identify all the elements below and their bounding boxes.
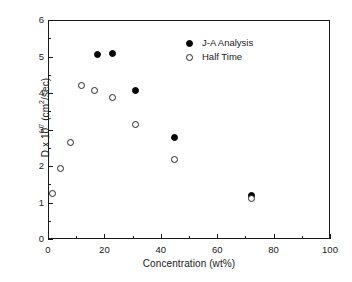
x-axis-tick-label: 100 — [315, 245, 345, 255]
x-axis-tick — [161, 234, 162, 239]
x-axis-tick — [104, 234, 105, 239]
x-axis-tick — [48, 234, 49, 239]
y-axis-title-post-2: /sec) — [40, 78, 51, 100]
x-axis-tick-label: 80 — [259, 245, 289, 255]
y-axis-title: D x 107 (cm2/sec) — [40, 33, 51, 203]
y-axis-tick — [48, 239, 53, 240]
x-axis-minor-tick — [189, 236, 190, 239]
x-axis-minor-tick — [76, 236, 77, 239]
data-point-open — [67, 139, 74, 146]
x-axis-title: Concentration (wt%) — [48, 258, 330, 269]
x-axis-minor-tick — [245, 236, 246, 239]
y-axis-tick-label: 6 — [26, 15, 44, 25]
legend-label: Half Time — [202, 52, 242, 62]
data-point-filled — [171, 134, 178, 141]
open-circle-icon — [186, 54, 193, 61]
x-axis-tick-labels: 020406080100 — [48, 245, 330, 259]
data-point-filled — [109, 50, 116, 57]
x-axis-tick — [274, 234, 275, 239]
y-axis-tick-label: 0 — [26, 234, 44, 244]
x-axis-tick — [330, 234, 331, 239]
y-axis-tick — [48, 20, 53, 21]
legend-label: J-A Analysis — [202, 38, 253, 48]
x-axis-tick-label: 20 — [89, 245, 119, 255]
y-axis-title-exponent-2: 2 — [38, 100, 45, 104]
x-axis-minor-tick — [302, 236, 303, 239]
legend-entry: J-A Analysis — [186, 36, 306, 50]
scatter-chart-figure: 0123456 020406080100 Concentration (wt%)… — [0, 0, 352, 282]
x-axis-tick-label: 60 — [202, 245, 232, 255]
data-point-filled — [132, 87, 139, 94]
y-axis-title-post: (cm — [40, 104, 51, 124]
data-point-open — [57, 165, 64, 172]
y-axis-minor-tick — [48, 221, 51, 222]
data-point-open — [171, 156, 178, 163]
x-axis-tick-label: 40 — [146, 245, 176, 255]
data-point-open — [91, 87, 98, 94]
y-axis-title-exponent: 7 — [38, 124, 45, 128]
data-point-open — [78, 82, 85, 89]
data-point-open — [132, 121, 139, 128]
y-axis-tick — [48, 203, 53, 204]
x-axis-tick — [217, 234, 218, 239]
x-axis-minor-tick — [133, 236, 134, 239]
legend: J-A AnalysisHalf Time — [186, 36, 306, 64]
data-point-filled — [94, 51, 101, 58]
legend-entry: Half Time — [186, 50, 306, 64]
filled-circle-icon — [186, 40, 193, 47]
y-axis-title-pre: D x 10 — [40, 128, 51, 158]
data-point-open — [248, 195, 255, 202]
data-point-open — [109, 94, 116, 101]
x-axis-tick-label: 0 — [33, 245, 63, 255]
